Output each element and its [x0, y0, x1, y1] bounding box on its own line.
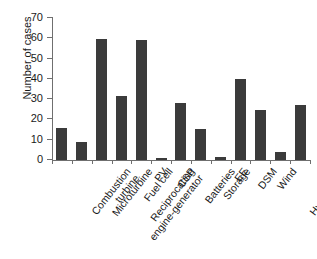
x-axis-tick-mark [52, 160, 53, 164]
x-axis-category-label: Microturbine [110, 166, 154, 218]
plot-area [52, 18, 310, 160]
x-axis-tick-mark [92, 160, 93, 164]
x-axis-tick-mark [231, 160, 232, 164]
x-axis-tick-mark [72, 160, 73, 164]
x-axis-category-label: Wind [276, 166, 299, 192]
bar-slot[interactable] [131, 18, 151, 160]
x-axis-tick-mark [310, 160, 311, 164]
bar[interactable] [275, 152, 286, 160]
x-axis-category-label: CSP [175, 166, 197, 190]
y-axis-tick-label: 60 [0, 31, 43, 43]
y-axis-tick-label: 20 [0, 112, 43, 124]
bar-chart-figure: Number of cases 706050403020100 Combusti… [0, 0, 317, 259]
bar[interactable] [116, 96, 127, 160]
x-axis-category-label: EE [232, 166, 249, 184]
x-axis-category-label: PV [153, 166, 170, 184]
x-axis-category-label: DSM [256, 166, 279, 191]
x-axis-category-label: Reciprocating engine-generator [138, 166, 205, 243]
y-axis-tick-label: 0 [0, 153, 43, 165]
x-axis-category-label: Batteries [203, 166, 237, 205]
x-axis-category-label: Fuel cell [142, 166, 175, 204]
x-axis-tick-mark [151, 160, 152, 164]
bar-slot[interactable] [191, 18, 211, 160]
bar[interactable] [195, 129, 206, 160]
x-axis-tick-mark [112, 160, 113, 164]
y-axis-tick-label: 50 [0, 52, 43, 64]
bar-slot[interactable] [290, 18, 310, 160]
bar[interactable] [156, 158, 167, 160]
x-axis-tick-mark [211, 160, 212, 164]
x-axis-tick-mark [171, 160, 172, 164]
bar[interactable] [56, 128, 67, 160]
x-axis-category-label: Combustion turbine [89, 166, 141, 224]
bar-slot[interactable] [250, 18, 270, 160]
x-axis-tick-mark [250, 160, 251, 164]
bar-slot[interactable] [112, 18, 132, 160]
bar[interactable] [96, 39, 107, 160]
x-axis-tick-mark [131, 160, 132, 164]
bar-slot[interactable] [72, 18, 92, 160]
y-axis-tick-label: 40 [0, 72, 43, 84]
bar-slot[interactable] [52, 18, 72, 160]
bar[interactable] [175, 103, 186, 160]
x-axis-tick-mark [290, 160, 291, 164]
bar-slot[interactable] [270, 18, 290, 160]
bar-slot[interactable] [231, 18, 251, 160]
x-axis-category-label: Other [316, 166, 317, 193]
bar-slot[interactable] [171, 18, 191, 160]
bar-slot[interactable] [211, 18, 231, 160]
bar[interactable] [215, 157, 226, 160]
bar-slot[interactable] [151, 18, 171, 160]
bar[interactable] [76, 142, 87, 160]
bar[interactable] [255, 110, 266, 160]
bar[interactable] [235, 79, 246, 160]
bar-slot[interactable] [92, 18, 112, 160]
x-axis-tick-mark [191, 160, 192, 164]
y-axis-tick-label: 30 [0, 92, 43, 104]
bar[interactable] [295, 105, 306, 160]
y-axis-tick-label: 10 [0, 133, 43, 145]
x-axis-category-label: Hydropower [308, 166, 317, 217]
x-axis-category-label: Storage [221, 166, 252, 202]
bar[interactable] [136, 40, 147, 160]
x-axis-tick-mark [270, 160, 271, 164]
y-axis-tick-label: 70 [0, 11, 43, 23]
